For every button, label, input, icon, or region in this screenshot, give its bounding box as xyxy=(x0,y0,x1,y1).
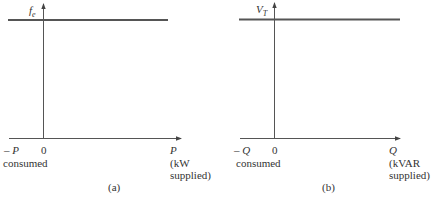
chart-canvas xyxy=(0,0,432,200)
panel-b-neg-label: – Q xyxy=(234,144,250,156)
panel-a-y-label-sub: e xyxy=(32,10,36,19)
panel-a-pos-unit-1: (kW xyxy=(170,157,190,169)
panel-b-y-label: VT xyxy=(256,3,267,20)
panel-a-caption: (a) xyxy=(108,181,120,193)
panel-b-origin: 0 xyxy=(272,144,278,156)
panel-b-y-label-sub: T xyxy=(263,9,267,18)
panel-b-caption: (b) xyxy=(322,181,335,193)
panel-b-pos-label: Q xyxy=(389,144,397,156)
panel-b-pos-unit-1: (kVAR xyxy=(389,157,420,169)
panel-a-pos-unit-2: supplied) xyxy=(170,169,211,181)
panel-b-axes xyxy=(239,3,400,139)
panel-a-neg-note: consumed xyxy=(3,157,48,169)
panel-b-y-label-main: V xyxy=(256,3,263,15)
panel-b-pos-unit-2: supplied) xyxy=(389,169,430,181)
panel-b-neg-note: consumed xyxy=(236,157,281,169)
panel-a-origin: 0 xyxy=(41,144,47,156)
panel-a-pos-label: P xyxy=(170,144,177,156)
panel-a-axes xyxy=(8,4,181,139)
panel-a-neg-label: – P xyxy=(4,144,19,156)
panel-a-y-label: fe xyxy=(29,4,36,21)
